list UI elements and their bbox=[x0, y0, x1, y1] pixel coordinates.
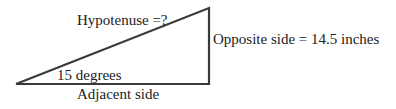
hypotenuse-label: Hypotenuse =? bbox=[77, 13, 168, 28]
angle-label: 15 degrees bbox=[57, 68, 122, 83]
adjacent-side-label: Adjacent side bbox=[77, 87, 159, 102]
right-triangle bbox=[0, 0, 396, 109]
opposite-side-label: Opposite side = 14.5 inches bbox=[213, 32, 379, 47]
